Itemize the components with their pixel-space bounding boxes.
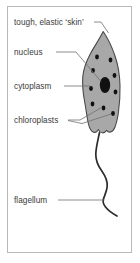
label-chloroplasts: chloroplasts — [14, 116, 58, 125]
nucleus-oval — [100, 77, 110, 93]
chloroplast-dot — [89, 86, 93, 91]
figure-page: tough, elastic ‘skin’ nucleus cytoplasm … — [0, 0, 140, 263]
leader-line-skin — [94, 22, 109, 33]
chloroplast-dot — [95, 55, 99, 60]
chloroplast-dot — [114, 90, 118, 95]
chloroplast-dot — [91, 102, 95, 107]
flagellum-tail — [96, 133, 117, 217]
label-flagellum: flagellum — [14, 196, 47, 205]
chloroplast-dot — [102, 106, 106, 111]
euglena-diagram: tough, elastic ‘skin’ nucleus cytoplasm … — [0, 0, 140, 263]
chloroplast-dot — [109, 58, 113, 63]
chloroplast-dot — [111, 111, 115, 116]
label-skin: tough, elastic ‘skin’ — [14, 18, 84, 27]
label-nucleus: nucleus — [14, 48, 43, 57]
chloroplast-dot — [113, 73, 117, 78]
label-cytoplasm: cytoplasm — [14, 82, 51, 91]
